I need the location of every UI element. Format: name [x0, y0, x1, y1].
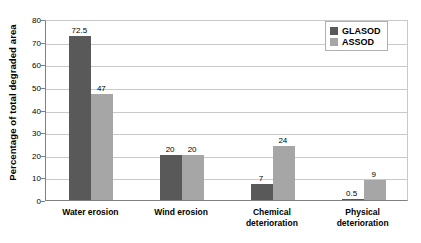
- bar-value-label: 20: [166, 145, 175, 154]
- legend-item-glasod: GLASOD: [330, 25, 381, 36]
- legend-item-assod: ASSOD: [330, 36, 381, 47]
- bar-value-label: 24: [278, 136, 287, 145]
- y-tick-label: 0: [21, 197, 41, 206]
- y-tick-label: 20: [21, 151, 41, 160]
- y-tick-mark: [41, 20, 45, 21]
- category-label: Water erosion: [62, 207, 118, 218]
- bar-value-label: 0.5: [346, 189, 357, 198]
- y-tick-label: 10: [21, 174, 41, 183]
- bar-value-label: 47: [97, 84, 106, 93]
- bar-assod: [182, 155, 204, 200]
- y-tick-mark: [41, 178, 45, 179]
- bar-value-label: 20: [188, 145, 197, 154]
- category-label: Wind erosion: [154, 207, 208, 218]
- gridline: [46, 66, 407, 67]
- legend-swatch-glasod: [330, 27, 338, 35]
- legend-swatch-assod: [330, 38, 338, 46]
- y-tick-label: 30: [21, 129, 41, 138]
- bar-assod: [364, 180, 386, 200]
- y-tick-mark: [41, 201, 45, 202]
- legend-label-glasod: GLASOD: [342, 26, 381, 36]
- chart-figure: Percentage of total degraded area GLASOD…: [0, 0, 421, 243]
- bar-glasod: [69, 36, 91, 200]
- bar-assod: [91, 94, 113, 200]
- y-tick-mark: [41, 65, 45, 66]
- bar-assod: [273, 146, 295, 200]
- category-label: Physical deterioration: [337, 207, 389, 229]
- bar-glasod: [342, 199, 364, 200]
- y-tick-mark: [41, 43, 45, 44]
- legend-label-assod: ASSOD: [342, 37, 374, 47]
- y-axis-title-text: Percentage of total degraded area: [7, 24, 18, 180]
- y-tick-mark: [41, 88, 45, 89]
- y-tick-label: 40: [21, 106, 41, 115]
- y-tick-label: 60: [21, 61, 41, 70]
- y-tick-mark: [41, 156, 45, 157]
- y-tick-label: 70: [21, 38, 41, 47]
- bar-value-label: 7: [259, 174, 263, 183]
- bar-glasod: [160, 155, 182, 200]
- y-tick-mark: [41, 133, 45, 134]
- y-tick-mark: [41, 111, 45, 112]
- y-tick-label: 50: [21, 83, 41, 92]
- bar-glasod: [251, 184, 273, 200]
- bar-value-label: 9: [371, 170, 375, 179]
- chart-legend: GLASOD ASSOD: [325, 21, 388, 51]
- bar-value-label: 72.5: [72, 26, 88, 35]
- category-label: Chemical deterioration: [246, 207, 298, 229]
- y-tick-label: 80: [21, 16, 41, 25]
